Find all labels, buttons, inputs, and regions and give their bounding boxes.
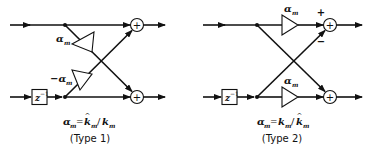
sum-symbol: + [326,92,334,103]
svg-text:^: ^ [297,112,303,120]
delay-exponent: −1 [230,90,239,97]
lower-gain-sub: m [66,79,72,86]
delay-exponent: −1 [40,90,49,97]
svg-text:m: m [303,122,309,129]
svg-text:/: / [97,116,101,127]
svg-text:=: = [76,117,84,127]
svg-text:m: m [109,122,115,129]
svg-text:^: ^ [85,112,91,120]
type-2-caption: (Type 2) [262,133,302,144]
upper-gain-sub: m [64,39,70,46]
plus-sign: + [317,7,325,18]
lattice-diagrams: + z −1 + α m −α m α m = k ^ m / [0,0,370,152]
svg-text:=: = [270,117,278,127]
type-1-formula: α m = k ^ m / k m [63,112,115,129]
upper-gain-triangle [282,15,298,35]
lower-cross-path [257,31,325,98]
lower-gain-triangle [282,87,298,107]
svg-text:k: k [102,116,109,127]
svg-text:/: / [291,116,295,127]
type-1-caption: (Type 1) [70,133,110,144]
lower-cross-path [65,31,132,98]
upper-gain-sub: m [292,9,298,16]
upper-cross-path [65,25,132,92]
lower-gain-sub: m [292,81,298,88]
sum-symbol: + [133,92,141,103]
sum-symbol: + [326,20,334,31]
type-2-diagram: α m + + − z −1 α m + α m = k m / k [203,3,362,144]
upper-gain-label: α [284,3,292,14]
lower-gain-label: −α [50,73,66,84]
upper-gain-label: α [56,33,64,44]
lower-gain-label: α [284,75,292,86]
type-2-formula: α m = k m / k ^ m [257,112,309,129]
sum-symbol: + [133,20,141,31]
type-1-diagram: + z −1 + α m −α m α m = k ^ m / [10,19,165,145]
svg-text:k: k [278,116,285,127]
